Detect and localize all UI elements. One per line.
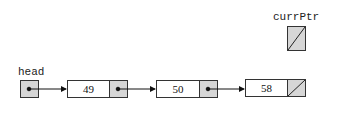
- node-2-arrow: [206, 87, 244, 91]
- node-1-arrow: [116, 87, 155, 91]
- node-3-null-slash: [288, 80, 305, 96]
- head-arrow: [27, 87, 66, 91]
- currptr-null-slash: [288, 27, 305, 50]
- arrows-layer: [0, 0, 337, 115]
